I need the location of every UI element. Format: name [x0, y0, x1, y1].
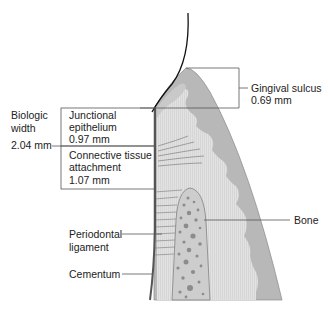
svg-text:epithelium: epithelium — [69, 121, 117, 133]
svg-text:width: width — [10, 122, 36, 134]
svg-text:1.07 mm: 1.07 mm — [69, 174, 110, 186]
svg-text:2.04 mm: 2.04 mm — [11, 139, 52, 151]
svg-text:0.97 mm: 0.97 mm — [69, 133, 110, 145]
svg-text:Junctional: Junctional — [69, 109, 116, 121]
svg-text:Periodontal: Periodontal — [69, 228, 122, 240]
svg-text:Gingival sulcus: Gingival sulcus — [251, 82, 322, 94]
svg-text:attachment: attachment — [69, 161, 121, 173]
connective-tissue-label: Connective tissue attachment 1.07 mm — [69, 149, 152, 186]
svg-text:Biologic: Biologic — [11, 109, 48, 121]
junctional-epithelium-label: Junctional epithelium 0.97 mm — [69, 109, 117, 145]
cementum-label: Cementum — [69, 268, 121, 280]
svg-text:ligament: ligament — [69, 241, 109, 253]
svg-text:0.69 mm: 0.69 mm — [251, 94, 292, 106]
gingival-sulcus-label: Gingival sulcus 0.69 mm — [251, 82, 322, 106]
biologic-width-diagram: Biologic width 2.04 mm Junctional epithe… — [0, 0, 328, 315]
periodontal-ligament-label: Periodontal ligament — [69, 228, 122, 253]
bone-label: Bone — [294, 214, 319, 226]
biologic-width-label: Biologic width 2.04 mm — [10, 109, 52, 151]
svg-text:Connective tissue: Connective tissue — [69, 149, 152, 161]
